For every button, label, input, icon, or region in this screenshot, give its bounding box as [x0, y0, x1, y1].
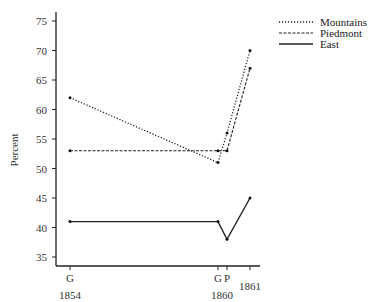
- y-ticks: 354045505560657075: [36, 15, 56, 263]
- data-point-east: [69, 220, 72, 223]
- data-point-mountains: [217, 161, 220, 164]
- y-tick-label: 50: [36, 163, 48, 175]
- legend: Mountains Piedmont East: [279, 16, 367, 50]
- data-point-piedmont: [69, 149, 72, 152]
- y-tick-label: 60: [36, 104, 48, 116]
- series-east: [70, 198, 250, 239]
- y-tick-label: 55: [36, 133, 48, 145]
- y-tick-label: 65: [36, 74, 48, 86]
- y-axis-label: Percent: [8, 134, 20, 167]
- y-tick-label: 75: [36, 15, 48, 27]
- data-point-east: [249, 197, 252, 200]
- x-year-label: 1860: [211, 289, 234, 301]
- data-point-piedmont: [226, 149, 229, 152]
- x-year-label: 1854: [59, 289, 82, 301]
- data-point-east: [226, 238, 229, 241]
- x-tick-label-top: G: [66, 272, 74, 284]
- y-tick-label: 40: [36, 222, 48, 234]
- y-tick-label: 35: [36, 251, 48, 263]
- y-tick-label: 70: [36, 45, 48, 57]
- x-ticks: GGP185418601861: [59, 266, 261, 301]
- series-mountains: [70, 51, 250, 163]
- data-point-mountains: [249, 49, 252, 52]
- series-piedmont: [70, 68, 250, 151]
- y-tick-label: 45: [36, 192, 48, 204]
- x-tick-label-top: P: [224, 272, 230, 284]
- data-point-piedmont: [249, 67, 252, 70]
- data-point-east: [217, 220, 220, 223]
- data-point-mountains: [69, 96, 72, 99]
- x-year-label: 1861: [239, 280, 261, 292]
- series-lines: [69, 49, 252, 241]
- data-point-mountains: [226, 132, 229, 135]
- legend-label-east: East: [320, 38, 339, 50]
- data-point-piedmont: [217, 149, 220, 152]
- x-tick-label-top: G: [214, 272, 222, 284]
- chart: 354045505560657075 Percent GGP1854186018…: [0, 0, 384, 302]
